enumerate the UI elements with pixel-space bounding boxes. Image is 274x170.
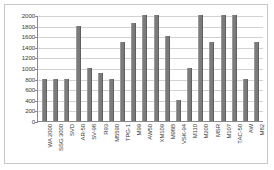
x-tick-label: VSK-94	[181, 104, 187, 124]
x-tick-label: XM109	[158, 105, 164, 124]
y-tick-label: 200	[25, 108, 35, 114]
y-tick-label: 1200	[22, 55, 35, 61]
x-tick-slot: M200	[195, 124, 206, 164]
bar-slot	[251, 16, 262, 121]
bar[interactable]	[221, 15, 226, 121]
x-tick-slot: M110	[184, 124, 195, 164]
y-axis: 0200400600800100012001400160018002000	[9, 16, 35, 122]
plot-area	[37, 16, 263, 122]
x-tick-label: M99	[136, 113, 142, 124]
bar-slot	[195, 16, 206, 121]
y-tick-mark	[35, 122, 38, 123]
x-tick-label: M82	[259, 113, 265, 124]
y-tick-label: 600	[25, 87, 35, 93]
x-tick-label: M107	[225, 109, 231, 124]
x-tick-label: M98B	[169, 109, 175, 124]
x-tick-slot: TAC-50	[228, 124, 239, 164]
x-tick-label: AW	[248, 115, 254, 124]
y-tick-label: 1400	[22, 45, 35, 51]
x-tick-slot: R93	[94, 124, 105, 164]
x-tick-label: M5590	[113, 106, 119, 124]
x-tick-slot: VSK-94	[172, 124, 183, 164]
x-tick-label: M200	[203, 109, 209, 124]
x-tick-label: TAC-50	[237, 104, 243, 124]
y-tick-label: 1600	[22, 34, 35, 40]
x-tick-slot: M82	[251, 124, 262, 164]
bar-slot	[72, 16, 83, 121]
x-tick-slot: XM109	[150, 124, 161, 164]
x-tick-slot: M99	[128, 124, 139, 164]
x-tick-slot: AW50	[139, 124, 150, 164]
x-tick-slot: TPG-1	[116, 124, 127, 164]
bar[interactable]	[209, 42, 214, 122]
x-tick-label: MSR	[214, 111, 220, 124]
x-tick-label: R93	[102, 113, 108, 124]
bar[interactable]	[142, 15, 147, 121]
y-tick-label: 1000	[22, 66, 35, 72]
x-tick-slot: SSG 3000	[49, 124, 60, 164]
x-tick-label: M110	[192, 110, 198, 124]
y-tick-label: 1800	[22, 23, 35, 29]
x-tick-label: SSG 3000	[57, 97, 63, 124]
x-tick-slot: SV-98	[83, 124, 94, 164]
bar-slot	[139, 16, 150, 121]
bar-slot	[206, 16, 217, 121]
chart-container: 0200400600800100012001400160018002000 WA…	[4, 4, 268, 164]
y-tick-label: 400	[25, 98, 35, 104]
x-tick-label: AR-50	[80, 107, 86, 124]
bar-series	[38, 16, 263, 121]
x-tick-slot: M5590	[105, 124, 116, 164]
x-tick-slot: AR-50	[72, 124, 83, 164]
chart-plot-wrapper: 0200400600800100012001400160018002000 WA…	[5, 5, 269, 165]
x-tick-slot: SVD	[60, 124, 71, 164]
x-tick-slot: MSR	[206, 124, 217, 164]
x-tick-label: WA 2000	[46, 101, 52, 124]
x-tick-label: AW50	[147, 108, 153, 124]
x-tick-slot: M107	[217, 124, 228, 164]
x-tick-label: SVD	[69, 112, 75, 124]
bar-slot	[95, 16, 106, 121]
y-tick-label: 800	[25, 76, 35, 82]
x-axis: WA 2000SSG 3000SVDAR-50SV-98R93M5590TPG-…	[37, 124, 263, 164]
x-tick-label: SV-98	[91, 108, 97, 124]
bar[interactable]	[254, 42, 259, 122]
x-tick-slot: AW	[240, 124, 251, 164]
x-tick-slot: WA 2000	[38, 124, 49, 164]
bar-slot	[84, 16, 95, 121]
bar[interactable]	[131, 23, 136, 121]
bar-slot	[218, 16, 229, 121]
x-tick-label: TPG-1	[125, 107, 131, 124]
y-tick-label: 2000	[22, 13, 35, 19]
bar-slot	[128, 16, 139, 121]
x-tick-slot: M98B	[161, 124, 172, 164]
bar[interactable]	[198, 15, 203, 121]
